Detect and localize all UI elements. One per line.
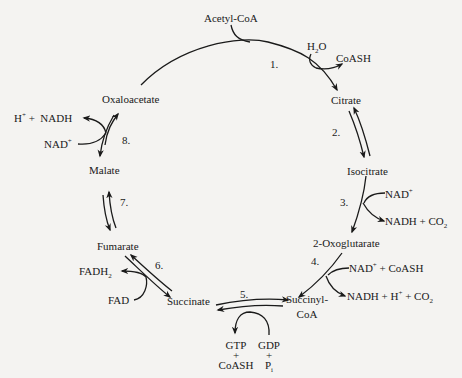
step-number-6: 6. — [155, 259, 163, 271]
arrow-step4-nad-in — [328, 268, 349, 275]
arrow-step2-forward — [349, 111, 364, 157]
cofactor-nad-step8: NAD+ — [44, 138, 72, 150]
cofactor-coash-step1: CoASH — [336, 52, 371, 64]
cofactor-fad: FAD — [108, 294, 129, 306]
step-number-2: 2. — [332, 126, 340, 138]
step-number-5: 5. — [240, 288, 248, 300]
cofactor-nadh-h-co2-step4: NADH + H+ + CO2 — [347, 290, 433, 302]
arrow-step7-reverse — [109, 192, 116, 228]
cofactor-coash-step5: CoASH — [218, 360, 254, 370]
metabolite-fumarate: Fumarate — [97, 240, 139, 252]
step-number-1: 1. — [270, 58, 278, 70]
cofactor-gtp-coash-step5: GTP + CoASH — [218, 340, 254, 370]
arrow-step3-nadh-out — [363, 203, 384, 221]
cofactor-nad-step3: NAD+ — [385, 188, 413, 200]
cofactor-nad-coash-step4: NAD+ + CoASH — [349, 262, 423, 274]
metabolite-malate: Malate — [89, 164, 120, 176]
cofactor-gdp-pi-step5: GDP + Pi — [256, 340, 282, 370]
cofactor-nadh-co2-step3: NADH + CO2 — [385, 215, 447, 227]
arrow-step8-nadh-out — [84, 118, 106, 133]
arrow-step6-fad-in — [134, 277, 147, 300]
step-number-8: 8. — [122, 134, 130, 146]
metabolite-succinyl-coa: Succinyl- CoA — [277, 293, 337, 320]
arrow-step5-reverse — [218, 305, 283, 310]
cofactor-h-nadh-step8: H+ + NADH — [14, 112, 72, 124]
step-number-3: 3. — [340, 196, 348, 208]
metabolite-succinyl-coa-line1: Succinyl- — [277, 293, 337, 305]
metabolite-succinyl-coa-line2: CoA — [277, 308, 337, 320]
cofactor-fadh2: FADH2 — [79, 265, 112, 277]
step-number-4: 4. — [311, 255, 319, 267]
arrow-step6-forward — [125, 256, 170, 297]
cofactor-h2o: H2O — [307, 40, 326, 52]
metabolite-succinate: Succinate — [167, 295, 210, 307]
metabolite-2-oxoglutarate: 2-Oxoglutarate — [313, 237, 380, 249]
step-number-7: 7. — [120, 196, 128, 208]
arrow-step3-nad-in — [364, 193, 385, 203]
metabolite-acetyl-coa: Acetyl-CoA — [204, 12, 258, 24]
arrow-step5-gdp-in — [235, 312, 269, 335]
cofactor-pi: Pi — [256, 360, 282, 370]
arrow-step7-forward — [103, 195, 110, 230]
metabolite-isocitrate: Isocitrate — [347, 165, 388, 177]
metabolite-oxaloacetate: Oxaloacetate — [102, 93, 159, 105]
metabolite-citrate: Citrate — [331, 94, 361, 106]
